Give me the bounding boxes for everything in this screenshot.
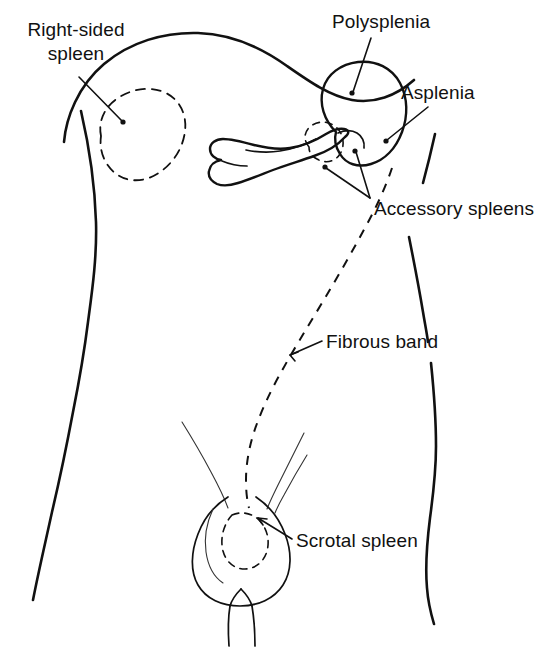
torso-right-outline-middle (409, 237, 428, 342)
scrotum-median-fold (230, 589, 241, 606)
leader-dot-accessory-1 (322, 164, 327, 169)
leader-asplenia (387, 107, 428, 140)
leader-dot-right-sided-spleen (120, 119, 125, 124)
penis-outline-left (228, 606, 230, 646)
label-right-sided-spleen: Right-sided spleen (10, 18, 142, 66)
label-right-sided-spleen-line1: Right-sided (10, 18, 142, 42)
inguinal-line-right (267, 433, 304, 509)
scrotum-median-fold-right (241, 589, 252, 606)
torso-right-outline-upper (423, 134, 435, 183)
leader-dot-accessory-2 (352, 148, 357, 153)
testis-left-contour (205, 509, 223, 583)
torso-right-outline-lower (426, 363, 436, 624)
leader-dot-polysplenia (349, 90, 354, 95)
pancreas-outline (209, 129, 348, 186)
pancreas-lobulation-2 (222, 161, 247, 166)
label-accessory-spleens: Accessory spleens (374, 197, 534, 221)
label-asplenia: Asplenia (401, 81, 475, 105)
ghost-right-sided-spleen (100, 89, 185, 180)
inguinal-line-right-outer (275, 455, 307, 513)
label-right-sided-spleen-line2: spleen (10, 42, 142, 66)
leader-dot-asplenia (383, 138, 388, 143)
leader-polysplenia (353, 38, 371, 92)
label-polysplenia: Polysplenia (332, 10, 430, 34)
penis-outline-right (252, 606, 255, 646)
leader-accessory-spleens-branch-1 (326, 168, 370, 198)
label-scrotal-spleen: Scrotal spleen (296, 529, 418, 553)
leader-accessory-spleens-branch-2 (356, 152, 370, 198)
inguinal-line-left (182, 422, 228, 508)
figure-root: Right-sided spleen Polysplenia Asplenia … (0, 0, 547, 649)
leader-right-sided-spleen (79, 77, 122, 121)
leader-scrotal-spleen (258, 518, 292, 539)
torso-left-outline (33, 111, 96, 600)
label-fibrous-band: Fibrous band (326, 330, 438, 354)
spleen-outline (322, 62, 407, 166)
